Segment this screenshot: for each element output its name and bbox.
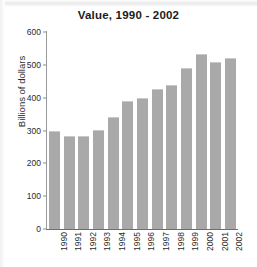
x-axis-tick: 1999 (181, 232, 192, 266)
bar-slot (181, 32, 192, 229)
x-axis-tick-label: 2002 (234, 232, 244, 251)
x-axis-tick: 1998 (166, 232, 177, 266)
y-axis-tick-label: 400 (27, 93, 41, 103)
bar (93, 130, 104, 229)
x-axis-tick: 1997 (152, 232, 163, 266)
bar-slot (78, 32, 89, 229)
bar-slot (108, 32, 119, 229)
bar-slot (152, 32, 163, 229)
x-axis-tick: 1992 (78, 232, 89, 266)
bar (122, 101, 133, 229)
bar-slot (122, 32, 133, 229)
y-axis-tick-label: 300 (27, 126, 41, 136)
bar (225, 58, 236, 229)
chart-title: Value, 1990 - 2002 (0, 9, 257, 21)
bar (137, 98, 148, 229)
bar (210, 62, 221, 229)
bar-slot (137, 32, 148, 229)
bar-slot (49, 32, 60, 229)
x-axis-tick: 1996 (137, 232, 148, 266)
x-axis-tick: 1990 (49, 232, 60, 266)
bar (78, 136, 89, 229)
bar (49, 131, 60, 229)
bar-slot (93, 32, 104, 229)
x-axis-tick: 1993 (93, 232, 104, 266)
y-axis-tick-label: 600 (27, 27, 41, 37)
bar-slot (196, 32, 207, 229)
bar (196, 54, 207, 229)
bar (166, 85, 177, 229)
x-axis-tick: 1994 (108, 232, 119, 266)
bar (64, 136, 75, 229)
plot-area: 0100200300400500600 (47, 32, 238, 229)
x-axis-tick: 1995 (122, 232, 133, 266)
chart-figure: Value, 1990 - 2002 Billions of dollars 0… (0, 0, 257, 267)
y-axis-label: Billions of dollars (16, 32, 27, 152)
bar-slot (166, 32, 177, 229)
x-axis-tick: 2000 (196, 232, 207, 266)
x-axis-tick: 1991 (64, 232, 75, 266)
y-axis-tick-label: 100 (27, 191, 41, 201)
bar (152, 89, 163, 229)
x-axis-line (46, 229, 238, 230)
bar-slot (64, 32, 75, 229)
scan-artifact-left (0, 0, 5, 267)
x-axis-tick: 2002 (225, 232, 236, 266)
y-axis-tick-label: 500 (27, 60, 41, 70)
x-axis-ticks: 1990199119921993199419951996199719981999… (47, 232, 238, 266)
y-axis-tick-label: 0 (36, 224, 41, 234)
x-axis-tick: 2001 (210, 232, 221, 266)
bar-series (47, 32, 238, 229)
scan-artifact-top (0, 0, 257, 7)
bar (108, 117, 119, 229)
y-axis-tick-label: 200 (27, 158, 41, 168)
bar-slot (210, 32, 221, 229)
bar-slot (225, 32, 236, 229)
bar (181, 68, 192, 229)
